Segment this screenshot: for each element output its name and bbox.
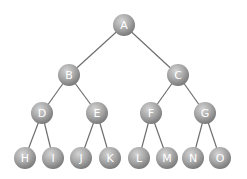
node-label: F	[148, 107, 154, 120]
edges-layer	[25, 25, 220, 158]
node-label: D	[38, 107, 46, 120]
node-label: E	[94, 107, 101, 120]
tree-node-k: K	[99, 147, 121, 169]
tree-node-g: G	[194, 102, 216, 124]
node-label: M	[162, 152, 172, 165]
node-label: I	[51, 152, 54, 165]
edge-a-c	[124, 25, 178, 75]
node-label: G	[201, 107, 210, 120]
nodes-layer: ABCDEFGHIJKLMNO	[14, 14, 231, 169]
tree-node-a: A	[113, 14, 135, 36]
node-label: C	[174, 69, 182, 82]
tree-node-n: N	[182, 147, 204, 169]
node-label: A	[120, 19, 128, 32]
node-label: K	[106, 152, 114, 165]
tree-node-f: F	[140, 102, 162, 124]
node-label: J	[78, 152, 82, 165]
node-label: N	[189, 152, 197, 165]
tree-node-i: I	[42, 147, 64, 169]
edge-a-b	[69, 25, 124, 75]
tree-node-c: C	[167, 64, 189, 86]
tree-node-h: H	[14, 147, 36, 169]
tree-node-o: O	[209, 147, 231, 169]
tree-node-e: E	[86, 102, 108, 124]
tree-node-l: L	[128, 147, 150, 169]
tree-node-d: D	[31, 102, 53, 124]
tree-node-m: M	[156, 147, 178, 169]
tree-node-j: J	[70, 147, 92, 169]
tree-node-b: B	[58, 64, 80, 86]
node-label: L	[136, 152, 143, 165]
node-label: O	[216, 152, 225, 165]
node-label: B	[65, 69, 73, 82]
node-label: H	[21, 152, 29, 165]
binary-tree-diagram: ABCDEFGHIJKLMNO	[0, 0, 247, 179]
